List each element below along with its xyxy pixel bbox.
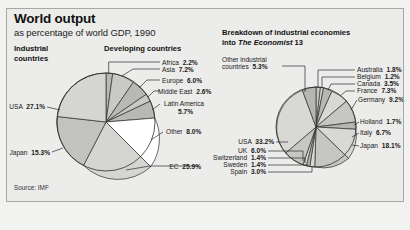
- callout-holland-name: Holland: [360, 118, 383, 125]
- callout-holland-value: 1.7%: [386, 118, 401, 125]
- callout-sweden-name: Sweden: [223, 161, 247, 168]
- callout-uk-name: UK: [238, 147, 248, 154]
- leader-australia: [318, 70, 355, 88]
- callout-holland: Holland 1.7%: [360, 118, 401, 125]
- callout-usa-right-name: USA: [238, 138, 252, 145]
- callout-other-industrial-line2: countries 5.3%: [222, 63, 268, 70]
- callout-asia-value: 7.2%: [179, 66, 194, 73]
- callout-usa-left-name: USA: [9, 103, 23, 110]
- callout-middle-east: Middle East 2.6%: [158, 88, 211, 95]
- callout-canada: Canada 3.5%: [357, 80, 399, 87]
- callout-uk-value: 6.0%: [251, 147, 266, 154]
- leader-other-industrial: [282, 66, 305, 92]
- callout-asia-name: Asia: [162, 66, 175, 73]
- callout-canada-value: 3.5%: [384, 80, 399, 87]
- callout-france-name: France: [357, 87, 378, 94]
- callout-other: Other 8.0%: [166, 128, 202, 135]
- callout-spain-name: Spain: [230, 168, 247, 176]
- leader-japan: [52, 148, 63, 152]
- callout-latin-america-name: Latin America: [164, 100, 204, 107]
- callout-europe-value: 6.0%: [187, 77, 202, 84]
- callout-ec: EC 25.9%: [169, 163, 201, 170]
- callout-usa-left: USA 27.1%: [9, 103, 45, 110]
- callout-europe-name: Europe: [162, 77, 184, 85]
- callout-other-value: 8.0%: [186, 128, 201, 135]
- callout-canada-name: Canada: [357, 80, 380, 87]
- leader-france: [340, 91, 355, 96]
- callout-spain-value: 3.0%: [251, 168, 266, 175]
- callout-italy-value: 6.7%: [376, 129, 391, 136]
- callout-germany-value: 9.2%: [389, 96, 404, 103]
- callout-switzerland: Switzerland 1.4%: [213, 154, 266, 161]
- callout-australia: Australia 1.8%: [357, 66, 402, 73]
- charts-svg: Africa 2.2% Asia 7.2% Europe 6.0% Middle…: [0, 0, 410, 230]
- left-pie-chart: [51, 73, 159, 179]
- callout-other-industrial-line1: Other industrial: [222, 56, 267, 63]
- leader-latin-america: [152, 104, 160, 110]
- callout-latin-america-value: 5.7%: [178, 108, 193, 115]
- leader-usa-left: [47, 107, 60, 110]
- callout-africa: Africa 2.2%: [162, 59, 198, 66]
- callout-italy: Italy 6.7%: [360, 129, 391, 137]
- leader-africa: [109, 62, 160, 74]
- callout-japan-left-name: Japan: [9, 149, 27, 157]
- callout-other-industrial-value: 5.3%: [253, 63, 268, 70]
- callout-australia-value: 1.8%: [387, 66, 402, 73]
- callout-italy-name: Italy: [360, 129, 373, 137]
- callout-japan-right: Japan 18.1%: [360, 142, 401, 150]
- callout-switzerland-value: 1.4%: [251, 154, 266, 161]
- callout-belgium-value: 1.2%: [385, 73, 400, 80]
- callout-germany: Germany 9.2%: [358, 96, 404, 104]
- leader-germany: [351, 100, 357, 110]
- callout-japan-left: Japan 15.3%: [9, 149, 50, 157]
- callout-japan-left-value: 15.3%: [31, 149, 50, 156]
- callout-sweden-value: 1.4%: [251, 161, 266, 168]
- right-pie-chart: [276, 87, 356, 168]
- callout-australia-name: Australia: [357, 66, 383, 73]
- leader-canada: [328, 84, 355, 90]
- callout-africa-value: 2.2%: [183, 59, 198, 66]
- callout-ec-value: 25.9%: [182, 163, 201, 170]
- leader-spain: [268, 167, 312, 172]
- callout-middle-east-name: Middle East: [158, 88, 193, 95]
- callout-japan-right-name: Japan: [360, 142, 378, 150]
- callout-switzerland-name: Switzerland: [213, 154, 247, 161]
- callout-other-name: Other: [166, 128, 183, 135]
- callout-europe: Europe 6.0%: [162, 77, 202, 85]
- callout-usa-right-value: 33.2%: [255, 138, 274, 145]
- callout-japan-right-value: 18.1%: [382, 142, 401, 149]
- callout-france-value: 7.3%: [381, 87, 396, 94]
- callout-germany-name: Germany: [358, 96, 386, 104]
- callout-spain: Spain 3.0%: [230, 168, 266, 176]
- left-slice-usa-main[interactable]: [57, 73, 106, 122]
- callout-france: France 7.3%: [357, 87, 397, 94]
- callout-uk: UK 6.0%: [238, 147, 266, 154]
- callout-africa-name: Africa: [162, 59, 179, 66]
- leader-belgium: [322, 77, 355, 88]
- leader-europe: [139, 80, 160, 88]
- callout-middle-east-value: 2.6%: [196, 88, 211, 95]
- callout-asia: Asia 7.2%: [162, 66, 194, 73]
- leader-asia: [122, 69, 160, 76]
- callout-usa-right: USA 33.2%: [238, 138, 274, 145]
- callout-sweden: Sweden 1.4%: [223, 161, 266, 168]
- callout-usa-left-value: 27.1%: [26, 103, 45, 110]
- callout-ec-name: EC: [169, 163, 178, 170]
- callout-other-industrial-name2: countries: [222, 63, 249, 70]
- screenshot-root: World output as percentage of world GDP,…: [0, 0, 410, 230]
